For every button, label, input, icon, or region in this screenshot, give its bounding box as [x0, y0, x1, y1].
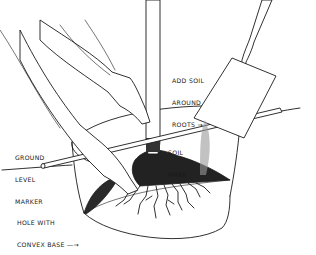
- label-line: MARK: [168, 171, 187, 178]
- label-line: MARKER: [15, 198, 45, 205]
- tree-stem: [146, 0, 160, 154]
- label-line: LEVEL: [15, 176, 45, 183]
- label-line: ADD SOIL: [172, 77, 204, 84]
- label-line: SOIL: [168, 149, 187, 156]
- label-add-soil: ADD SOIL AROUND ROOTS →: [172, 63, 204, 135]
- label-soil-mark: SOIL MARK: [168, 135, 187, 185]
- label-line: HOLE WITH: [17, 219, 79, 226]
- hole-base: [84, 196, 230, 239]
- label-line: CONVEX BASE —→: [17, 241, 79, 248]
- label-line: ROOTS →: [172, 121, 204, 128]
- label-hole-convex-base: HOLE WITH CONVEX BASE —→: [17, 205, 79, 255]
- label-ground-level-marker: GROUND LEVEL MARKER: [15, 140, 45, 212]
- label-line: GROUND: [15, 154, 45, 161]
- label-line: AROUND: [172, 99, 204, 106]
